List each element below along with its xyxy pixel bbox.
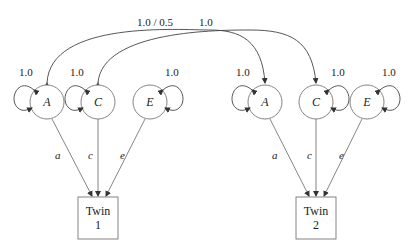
path-label-e-twin2: e [339, 150, 344, 161]
twin1-label: Twin 1 [78, 204, 118, 232]
variance-label-C-twin2: 1.0 [331, 67, 345, 78]
variance-label-C-twin1: 1.0 [70, 67, 84, 78]
correlation-label-A: 1.0 / 0.5 [137, 17, 173, 28]
correlation-arc-C [98, 30, 316, 83]
node-label-A-twin2: A [255, 96, 275, 108]
node-label-C-twin2: C [306, 96, 326, 108]
twin1-label-line2: 1 [78, 218, 118, 232]
variance-label-A-twin2: 1.0 [236, 67, 250, 78]
twin2-label-line1: Twin [296, 204, 336, 218]
node-label-C-twin1: C [88, 96, 108, 108]
twin1-label-line1: Twin [78, 204, 118, 218]
node-label-A-twin1: A [37, 96, 57, 108]
path-label-a-twin1: a [55, 150, 61, 161]
variance-label-E-twin1: 1.0 [165, 67, 179, 78]
variance-label-E-twin2: 1.0 [382, 67, 396, 78]
node-label-E-twin2: E [357, 96, 377, 108]
path-label-e-twin1: e [120, 150, 125, 161]
path-label-a-twin2: a [272, 150, 278, 161]
path-label-c-twin1: c [88, 150, 93, 161]
twin2-label: Twin 2 [296, 204, 336, 232]
path-label-c-twin2: c [307, 150, 312, 161]
variance-label-A-twin1: 1.0 [19, 67, 33, 78]
path-e-twin1 [106, 119, 145, 196]
diagram-canvas [0, 0, 414, 247]
correlation-label-C: 1.0 [199, 17, 213, 28]
node-label-E-twin1: E [140, 96, 160, 108]
twin2-label-line2: 2 [296, 218, 336, 232]
